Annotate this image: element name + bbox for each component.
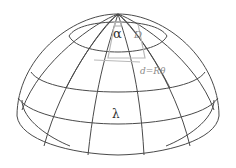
theta-faint-label: D xyxy=(133,29,142,40)
alpha-label: α xyxy=(113,26,122,41)
parallel-middle xyxy=(31,72,205,92)
hemisphere-diagram: α D d=Rθ λ xyxy=(0,0,236,168)
distance-formula-label: d=Rθ xyxy=(140,66,166,76)
lambda-label: λ xyxy=(112,107,120,121)
